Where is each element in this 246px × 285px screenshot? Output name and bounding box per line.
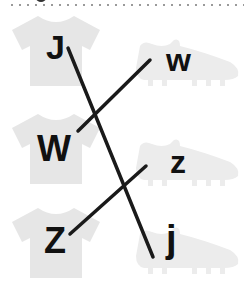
match-line-Z-z (70, 166, 146, 234)
matching-lines (0, 0, 246, 285)
